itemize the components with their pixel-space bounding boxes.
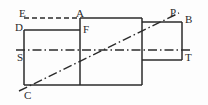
dash-dot-line-group — [16, 13, 192, 91]
vertex-label-f: F — [83, 24, 89, 35]
solid-line-group — [24, 18, 182, 85]
vertex-label-a: A — [76, 8, 84, 19]
vertex-label-t: T — [185, 52, 192, 63]
vertex-label-c: C — [24, 90, 31, 101]
vertex-label-p: P — [170, 7, 176, 18]
vertex-label-e: E — [19, 8, 26, 19]
vertex-label-d: D — [15, 22, 23, 33]
vertex-label-b: B — [185, 14, 192, 25]
vertex-label-s: S — [17, 52, 23, 63]
geometry-figure: EAPBDFSTC — [0, 0, 208, 105]
cutting-line-c-p — [19, 13, 179, 91]
